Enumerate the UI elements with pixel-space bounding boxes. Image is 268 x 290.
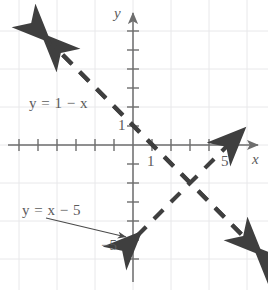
coordinate-plane-svg [0, 0, 268, 290]
x-axis-label: x [252, 152, 259, 167]
graph-figure: y = 1 − x y = x − 5 1 1 5 −5 y x [0, 0, 268, 290]
label-line2-equation: y = x − 5 [22, 203, 81, 218]
axis-lines [8, 13, 258, 282]
tick-label-x-1: 1 [147, 154, 155, 169]
tick-label-x-5: 5 [221, 154, 229, 169]
label-line1-equation: y = 1 − x [29, 96, 88, 111]
tick-label-y-1: 1 [118, 118, 126, 133]
y-axis-label: y [114, 6, 121, 21]
tick-label-y-neg5: −5 [101, 238, 117, 253]
